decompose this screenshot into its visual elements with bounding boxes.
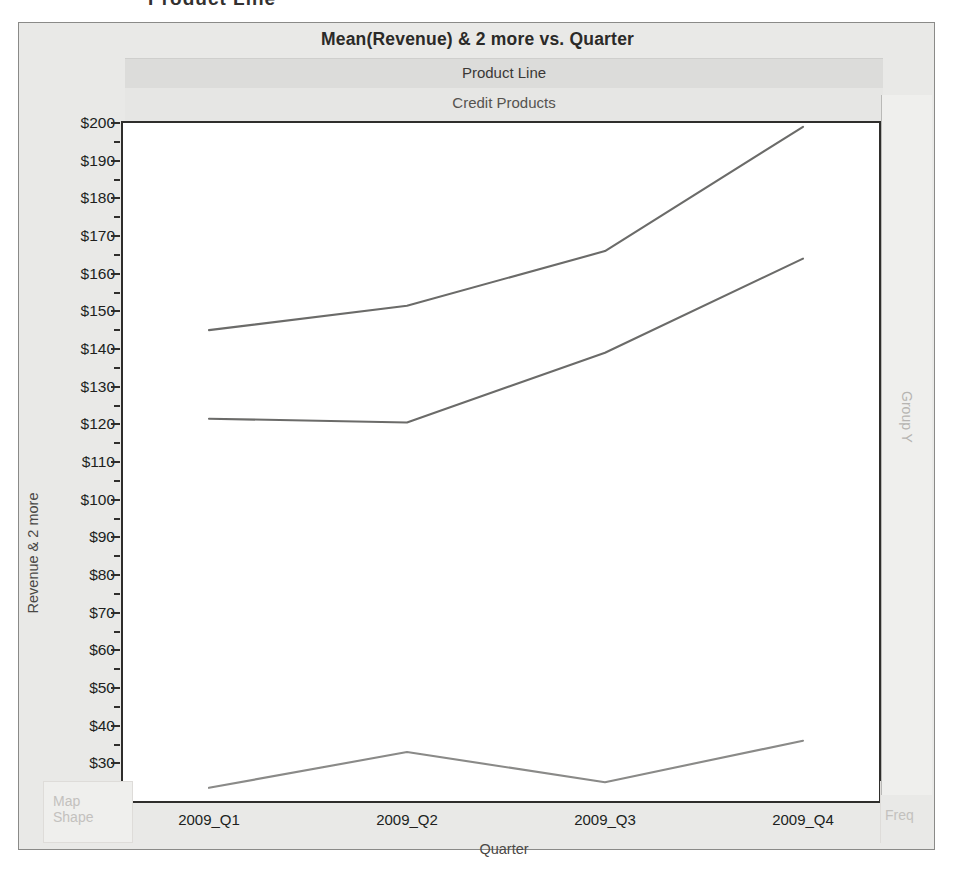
y-minor-tick	[114, 442, 120, 444]
series-line-2	[209, 259, 803, 423]
y-major-tick	[111, 536, 120, 538]
y-major-tick	[111, 612, 120, 614]
y-major-tick	[111, 649, 120, 651]
y-axis-title: Revenue & 2 more	[25, 453, 41, 653]
x-tick-label: 2009_Q2	[376, 811, 438, 828]
shape-legend-label: Shape	[44, 809, 132, 825]
y-major-tick	[111, 310, 120, 312]
plot-area	[121, 121, 881, 803]
y-minor-tick	[114, 292, 120, 294]
y-major-tick	[111, 762, 120, 764]
y-major-tick	[111, 687, 120, 689]
y-tick-label: $180	[25, 189, 115, 207]
y-minor-tick	[114, 254, 120, 256]
map-legend-label: Map	[44, 782, 132, 809]
y-minor-tick	[114, 518, 120, 520]
plot-wrap	[121, 121, 881, 803]
y-tick-label: $50	[25, 679, 115, 697]
series-line-1	[209, 127, 803, 330]
y-major-tick	[111, 197, 120, 199]
y-major-tick	[111, 235, 120, 237]
y-minor-tick	[114, 141, 120, 143]
y-tick-label: $150	[25, 302, 115, 320]
y-minor-tick	[114, 706, 120, 708]
y-major-tick	[111, 273, 120, 275]
y-tick-label: $200	[25, 114, 115, 132]
panel-header-label: Product Line	[125, 59, 883, 81]
y-major-tick	[111, 574, 120, 576]
series-line-3	[209, 741, 803, 788]
x-tick-label: 2009_Q4	[772, 811, 834, 828]
panel-value-label: Credit Products	[125, 88, 883, 111]
y-major-tick	[111, 160, 120, 162]
chart-title: Mean(Revenue) & 2 more vs. Quarter	[19, 29, 936, 50]
group-y-strip: Group Y	[881, 95, 932, 795]
y-minor-tick	[114, 668, 120, 670]
x-tick-label: 2009_Q3	[574, 811, 636, 828]
chart-frame: Mean(Revenue) & 2 more vs. Quarter Produ…	[18, 22, 935, 850]
y-minor-tick	[114, 405, 120, 407]
y-minor-tick	[114, 744, 120, 746]
y-major-tick	[111, 499, 120, 501]
panel-header-band: Product Line	[125, 58, 883, 89]
top-clipped-caption: Product Line	[0, 0, 953, 18]
y-major-tick	[111, 423, 120, 425]
group-y-label: Group Y	[899, 391, 915, 443]
x-tick-label: 2009_Q1	[178, 811, 240, 828]
y-major-tick	[111, 348, 120, 350]
y-minor-tick	[114, 179, 120, 181]
y-major-tick	[111, 461, 120, 463]
y-axis-title-host: Revenue & 2 more	[27, 353, 49, 583]
y-minor-tick	[114, 216, 120, 218]
top-caption-text: Product Line	[148, 0, 276, 10]
y-major-tick	[111, 122, 120, 124]
y-minor-tick	[114, 480, 120, 482]
y-tick-label: $190	[25, 152, 115, 170]
x-axis-tick-labels: 2009_Q12009_Q22009_Q32009_Q4	[121, 809, 881, 835]
y-tick-label: $30	[25, 754, 115, 772]
map-shape-legend[interactable]: Map Shape	[43, 781, 133, 843]
freq-legend-label: Freq	[881, 781, 932, 823]
y-major-tick	[111, 725, 120, 727]
panel-value-band: Credit Products	[125, 88, 883, 121]
y-minor-tick	[114, 593, 120, 595]
y-minor-tick	[114, 631, 120, 633]
y-minor-tick	[114, 367, 120, 369]
plot-svg	[123, 123, 879, 801]
y-minor-tick	[114, 329, 120, 331]
x-axis-title: Quarter	[125, 841, 883, 857]
y-tick-label: $40	[25, 717, 115, 735]
y-major-tick	[111, 386, 120, 388]
freq-legend[interactable]: Freq	[880, 781, 932, 843]
y-minor-tick	[114, 555, 120, 557]
y-tick-label: $170	[25, 227, 115, 245]
y-tick-label: $160	[25, 265, 115, 283]
